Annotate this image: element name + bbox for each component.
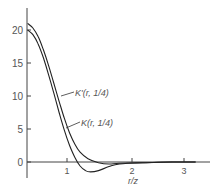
series-kprime-line — [28, 23, 196, 164]
x-ticks — [67, 158, 184, 162]
x-tick-label: 3 — [181, 166, 186, 176]
chart: 0 5 10 15 20 1 2 3 r/z K'(r, 1/4) K(r, 1… — [0, 0, 217, 190]
kprime-annotation: K'(r, 1/4) — [75, 88, 109, 98]
kprime-leader-line — [61, 92, 74, 96]
x-tick-label: 2 — [129, 166, 134, 176]
y-tick-label: 10 — [12, 91, 24, 102]
y-tick-label: 20 — [12, 25, 24, 36]
y-tick-label: 15 — [12, 58, 24, 69]
k-annotation: K(r, 1/4) — [81, 118, 113, 128]
y-tick-label: 0 — [17, 157, 23, 168]
k-leader-line — [66, 122, 80, 128]
y-tick-label: 5 — [17, 124, 23, 135]
y-ticks — [27, 30, 31, 162]
x-tick-labels: 1 2 3 — [64, 166, 186, 176]
x-tick-label: 1 — [64, 166, 69, 176]
series-k-line — [28, 30, 196, 172]
x-axis-label: r/z — [128, 176, 138, 186]
y-tick-labels: 0 5 10 15 20 — [12, 25, 24, 168]
